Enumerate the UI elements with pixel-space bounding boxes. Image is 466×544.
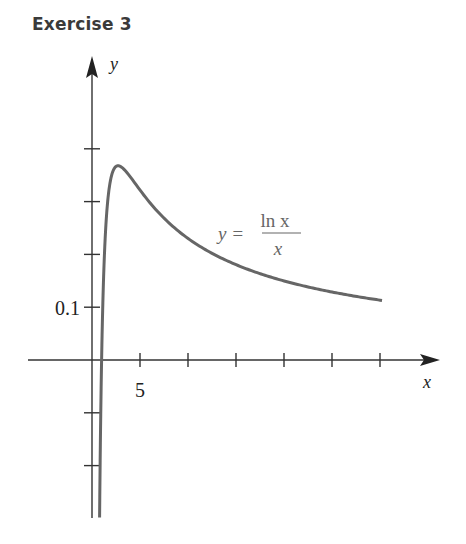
x-tick-label: 5 [135,379,145,401]
y-tick-label: 0.1 [55,297,80,319]
axes [28,56,440,518]
function-curve [100,166,382,518]
svg-text:y =: y = [216,223,244,244]
svg-text:x: x [273,238,283,259]
curve-equation-label: y = ln x x [216,210,301,259]
chart: y x 5 0.1 y = ln x x [0,0,466,544]
x-axis-label: x [422,372,431,392]
svg-text:ln x: ln x [260,210,290,231]
y-axis-label: y [108,54,118,74]
